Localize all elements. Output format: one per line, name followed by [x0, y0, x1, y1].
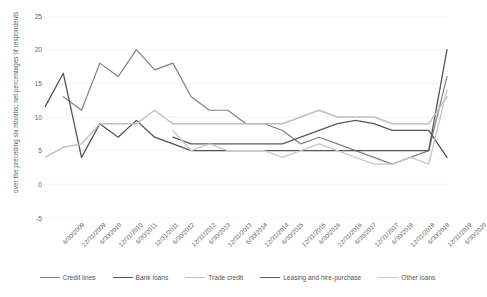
plot-svg: [45, 16, 448, 218]
series-line: [173, 90, 447, 164]
legend-label: Other loans: [401, 274, 435, 281]
series-line: [63, 50, 447, 164]
legend-label: Credit lines: [63, 274, 96, 281]
y-axis-tick-label: 0: [20, 181, 42, 188]
legend-color-swatch: [185, 277, 205, 278]
legend-item[interactable]: Bank loans: [113, 274, 169, 281]
y-axis-tick-label: 5: [20, 147, 42, 154]
legend-color-swatch: [40, 277, 60, 278]
legend-color-swatch: [378, 277, 398, 278]
series-line: [45, 50, 447, 158]
chart-legend: Credit linesBank loansTrade creditLeasin…: [30, 269, 445, 285]
legend-label: Trade credit: [208, 274, 243, 281]
plot-area: [45, 16, 448, 218]
legend-color-swatch: [113, 277, 133, 278]
y-axis-tick-label: 10: [20, 114, 42, 121]
x-axis-tick-labels: 6/30/200912/31/20096/30/201012/31/20106/…: [45, 219, 448, 269]
y-axis-tick-label: 15: [20, 80, 42, 87]
y-axis-tick-label: 25: [20, 13, 42, 20]
legend-item[interactable]: Other loans: [378, 274, 435, 281]
y-axis-tick-labels: 2520151050-5: [10, 0, 42, 297]
series-line: [173, 120, 447, 157]
legend-item[interactable]: Credit lines: [40, 274, 96, 281]
legend-label: Leasing and hire-purchase: [283, 274, 361, 281]
legend-color-swatch: [260, 277, 280, 278]
legend-item[interactable]: Leasing and hire-purchase: [260, 274, 361, 281]
y-axis-tick-label: 20: [20, 46, 42, 53]
y-axis-tick-label: -5: [20, 215, 42, 222]
legend-item[interactable]: Trade credit: [185, 274, 243, 281]
legend-label: Bank loans: [136, 274, 169, 281]
